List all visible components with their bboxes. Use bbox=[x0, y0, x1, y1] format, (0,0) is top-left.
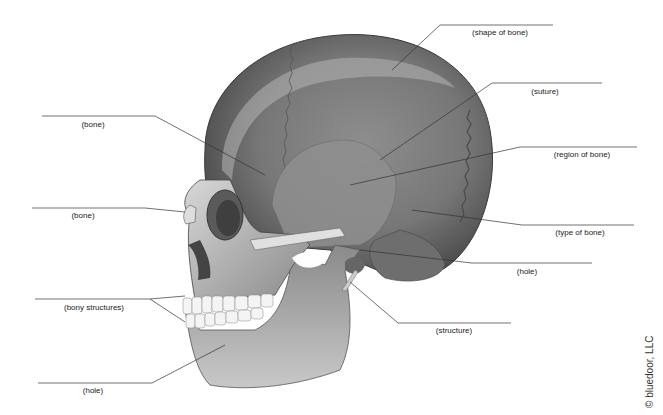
label-region-of-bone: (region of bone) bbox=[554, 150, 610, 159]
label-bone-nasal: (bone) bbox=[71, 211, 94, 220]
label-bony-structures: (bony structures) bbox=[64, 303, 124, 312]
label-structure: (structure) bbox=[436, 326, 472, 335]
label-shape-of-bone: (shape of bone) bbox=[472, 28, 528, 37]
label-type-of-bone: (type of bone) bbox=[555, 228, 604, 237]
skull-illustration bbox=[0, 0, 663, 415]
label-suture: (suture) bbox=[531, 87, 559, 96]
label-hole-ear: (hole) bbox=[517, 267, 537, 276]
teeth bbox=[183, 294, 273, 328]
skull-diagram: (shape of bone) (suture) (bone) (region … bbox=[0, 0, 663, 415]
copyright-notice: © bluedoor, LLC bbox=[644, 336, 655, 408]
label-hole-jaw: (hole) bbox=[83, 386, 103, 395]
label-bone-upper: (bone) bbox=[81, 120, 104, 129]
